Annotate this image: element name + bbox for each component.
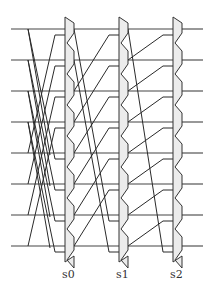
stage2-cross-wire-3 bbox=[128, 128, 173, 153]
stage2-cross-wire-2 bbox=[128, 97, 173, 122]
stage1-cross-wire-1 bbox=[74, 66, 119, 122]
stage-label-s0: s0 bbox=[62, 268, 75, 281]
stage1-cross-wire-2 bbox=[74, 97, 119, 153]
mux-column-s2 bbox=[173, 17, 182, 268]
stage-labels: s0 s1 s2 bbox=[62, 268, 183, 281]
stage2-cross-wire-6 bbox=[128, 221, 173, 246]
stage2-cross-wire-7 bbox=[128, 29, 173, 252]
stage2-cross-wire-5 bbox=[128, 190, 173, 215]
stage1-cross-wire-5 bbox=[74, 190, 119, 246]
mux-layer bbox=[65, 17, 182, 268]
stage0-fan-wire-7 bbox=[28, 122, 50, 248]
stage1-cross-wire-4 bbox=[74, 159, 119, 215]
mux-column-s0 bbox=[65, 17, 74, 268]
stage0-cross-wire-7 bbox=[28, 122, 65, 252]
stage1-cross-wire-0 bbox=[74, 35, 119, 91]
stage1-cross-wire-7 bbox=[74, 60, 119, 252]
stage1-cross-wire-6 bbox=[74, 29, 119, 221]
stage1-cross-wire-3 bbox=[74, 128, 119, 184]
stage-label-s2: s2 bbox=[170, 268, 183, 281]
stage2-cross-wire-0 bbox=[128, 35, 173, 60]
mux-column-s1 bbox=[119, 17, 128, 268]
stage-label-s1: s1 bbox=[116, 268, 129, 281]
barrel-shifter-diagram: s0 s1 s2 bbox=[0, 0, 210, 290]
